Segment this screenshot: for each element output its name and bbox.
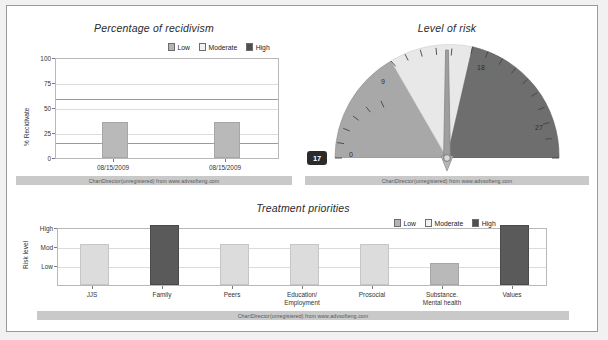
watermark-treatment: ChartDirector(unregistered) from www.adv… [37,311,569,320]
bar-family [150,225,179,285]
legend-label-high: High [256,44,270,51]
gauge-svg: 0 9 18 27 [317,40,577,172]
x-tickmark-2 [225,159,226,162]
x-axis-label-jjs: JJS [57,291,127,299]
bar-education [290,244,319,285]
y-tick-label-0: 0 [31,155,51,162]
x-axis-label-values: Values [477,291,547,299]
x-axis-label-peers-line1: Peers [197,291,267,299]
bar-substance [430,263,459,285]
legend-label-low: Low [178,44,190,51]
y-tick-label-25: 25 [31,130,51,137]
x-tickmark-1 [113,159,114,162]
chart-level-of-risk: Level of risk [299,14,595,186]
x-axis-label-education-line2: Employment [267,299,337,307]
y-tick-label-50: 50 [31,105,51,112]
gauge-value-box: 17 [307,151,327,165]
plot-area-treatment [57,228,547,286]
plot-area-recidivism [55,58,279,159]
chart-percentage-of-recidivism: Percentage of recidivism Low Moderate Hi… [11,14,297,186]
x-tickmark-values [512,286,513,289]
legend-swatch-low-icon [394,219,401,227]
legend-swatch-high-icon [246,43,253,51]
legend-item-high-treatment: High [472,219,495,227]
bar-jjs [80,244,109,285]
x-axis-label-family-line1: Family [127,291,197,299]
bar-peers [220,244,249,285]
y-tickmark-50 [52,108,55,109]
gridline-25 [56,134,278,135]
chart-title-level-of-risk: Level of risk [299,22,595,34]
x-tickmark-peers [232,286,233,289]
x-tickmark-family [162,286,163,289]
gauge-tick-label-0: 0 [349,151,353,158]
y-tick-label-mod: Mod [29,244,53,251]
x-axis-label-1: 08/15/2009 [83,164,143,172]
x-axis-label-family: Family [127,291,197,299]
legend-item-high: High [246,43,269,51]
y-tick-label-low: Low [29,263,53,270]
gridline-75 [56,84,278,85]
y-tickmark-mod [54,247,57,248]
report-panel: Percentage of recidivism Low Moderate Hi… [6,5,598,332]
legend-treatment: Low Moderate High [394,219,496,227]
y-tick-label-high: High [29,225,53,232]
legend-item-low: Low [168,43,190,51]
y-tickmark-75 [52,83,55,84]
legend-item-moderate-treatment: Moderate [425,219,463,227]
x-axis-label-values-line1: Values [477,291,547,299]
x-axis-label-prosocial-line1: Prosocial [337,291,407,299]
y-tickmark-high [54,228,57,229]
legend-label-moderate: Moderate [434,220,463,227]
legend-label-low: Low [404,220,416,227]
x-axis-label-substance-line2: Mental health [407,299,477,307]
reference-line-60 [56,99,278,100]
gridline-50 [56,109,278,110]
y-tickmark-low [54,266,57,267]
gauge-level-of-risk: 0 9 18 27 [317,40,577,170]
chart-treatment-priorities: Treatment priorities Low Moderate High R… [11,194,595,328]
legend-swatch-moderate-icon [425,219,432,227]
reference-line-16 [56,143,278,144]
x-axis-label-prosocial: Prosocial [337,291,407,299]
x-axis-label-jjs-line1: JJS [57,291,127,299]
x-axis-label-peers: Peers [197,291,267,299]
bar-prosocial [360,244,389,285]
watermark-recidivism: ChartDirector(unregistered) from www.adv… [16,176,292,185]
chart-title-recidivism: Percentage of recidivism [11,22,297,34]
gauge-needle-hub [444,155,451,162]
gauge-tick-label-27: 27 [535,124,543,131]
legend-item-moderate: Moderate [199,43,237,51]
legend-swatch-high-icon [472,219,479,227]
gauge-tick-label-18: 18 [477,64,485,71]
x-tickmark-jjs [92,286,93,289]
y-tick-label-75: 75 [31,80,51,87]
y-tickmark-25 [52,133,55,134]
x-axis-label-education: Education/ Employment [267,291,337,307]
watermark-level-of-risk: ChartDirector(unregistered) from www.adv… [305,176,589,185]
legend-label-high: High [482,220,496,227]
x-axis-label-2: 08/15/2009 [195,164,255,172]
y-tickmark-0 [52,158,55,159]
y-tickmark-100 [52,58,55,59]
x-tickmark-prosocial [372,286,373,289]
legend-swatch-moderate-icon [199,43,206,51]
bar-recidivism-2 [214,122,240,158]
legend-swatch-low-icon [168,43,175,51]
x-tickmark-education [302,286,303,289]
y-axis-title-treatment: Risk level [22,241,29,269]
x-axis-label-substance: Substance. Mental health [407,291,477,307]
legend-label-moderate: Moderate [208,44,237,51]
legend-recidivism: Low Moderate High [168,43,270,51]
x-axis-label-substance-line1: Substance. [407,291,477,299]
y-tick-label-100: 100 [31,55,51,62]
x-axis-label-education-line1: Education/ [267,291,337,299]
chart-title-treatment: Treatment priorities [11,202,595,214]
bar-recidivism-1 [102,122,128,158]
bar-values [500,225,529,285]
y-axis-title-recidivism: % Recidivate [23,108,30,146]
gauge-tick-label-9: 9 [381,78,385,85]
x-tickmark-substance [442,286,443,289]
legend-item-low-treatment: Low [394,219,416,227]
